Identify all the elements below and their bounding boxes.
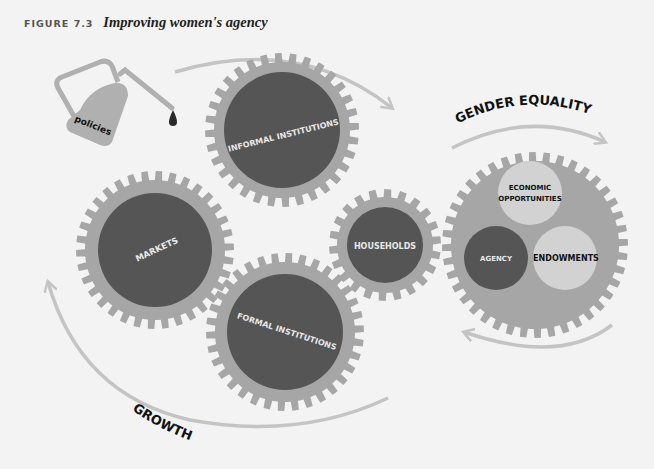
households-label: HOUSEHOLDS xyxy=(354,242,416,251)
economic-opportunities-circle xyxy=(498,161,562,225)
oil-drop-icon xyxy=(169,110,177,126)
gender-equality-arrow xyxy=(452,126,605,148)
oil-can-icon xyxy=(57,61,177,146)
economic-label-line2: OPPORTUNITIES xyxy=(498,195,561,203)
growth-label: GROWTH xyxy=(130,400,194,443)
diagram-canvas: GENDER EQUALITY GROWTH policies MARKETS … xyxy=(0,0,654,469)
economic-label-line1: ECONOMIC xyxy=(509,184,551,192)
gender-equality-label: GENDER EQUALITY xyxy=(453,93,594,127)
agency-label: AGENCY xyxy=(480,255,513,263)
endowments-label: ENDOWMENTS xyxy=(533,254,599,263)
